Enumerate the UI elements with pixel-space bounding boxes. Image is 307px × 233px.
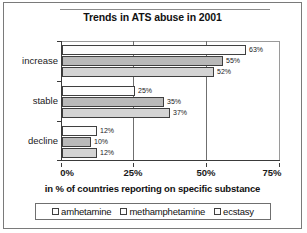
title-divider: [60, 9, 270, 10]
category-label-increase: increase: [6, 55, 58, 66]
bar-value-label: 10%: [94, 136, 108, 147]
x-tick-label-0: 0%: [60, 167, 74, 178]
legend-label: amhetamine: [61, 206, 111, 217]
chart-frame: Trends in ATS abuse in 2001 increase sta…: [3, 2, 302, 229]
bar-row: 52%: [62, 67, 280, 77]
bar-stable-ecstasy[interactable]: [62, 108, 170, 118]
bar-value-label: 25%: [138, 85, 152, 96]
legend-item-amhetamine[interactable]: amhetamine: [52, 206, 111, 217]
bar-value-label: 37%: [173, 107, 187, 118]
bar-row: 37%: [62, 108, 280, 118]
legend-swatch-icon: [214, 208, 221, 215]
bar-value-label: 12%: [100, 147, 114, 158]
x-axis-line: [61, 160, 280, 161]
category-label-stable: stable: [6, 95, 58, 106]
legend-label: methamphetamine: [129, 206, 205, 217]
x-axis-title: in % of countries reporting on specific …: [4, 183, 301, 194]
y-tick-3: [57, 160, 62, 161]
bar-increase-amhetamine[interactable]: [62, 45, 246, 55]
bar-value-label: 63%: [249, 44, 263, 55]
bar-row: 10%: [62, 137, 280, 147]
bar-row: 25%: [62, 86, 280, 96]
bar-row: 55%: [62, 56, 280, 66]
bar-decline-ecstasy[interactable]: [62, 148, 97, 158]
legend-swatch-icon: [120, 208, 127, 215]
y-tick-2: [57, 121, 62, 122]
bar-decline-methamphetamine[interactable]: [62, 137, 91, 147]
legend-item-methamphetamine[interactable]: methamphetamine: [120, 206, 205, 217]
x-axis-ticks: 0% 25% 50% 75%: [61, 163, 280, 177]
bar-group-stable: 25% 35% 37%: [62, 86, 280, 119]
legend-item-ecstasy[interactable]: ecstasy: [214, 206, 254, 217]
legend-label: ecstasy: [223, 206, 254, 217]
category-label-decline: decline: [6, 135, 58, 146]
bar-value-label: 35%: [167, 96, 181, 107]
bar-group-increase: 63% 55% 52%: [62, 45, 280, 78]
x-tick-label-75: 75%: [262, 167, 281, 178]
chart-legend: amhetamine methamphetamine ecstasy: [35, 203, 271, 220]
y-tick-1: [57, 81, 62, 82]
bar-value-label: 12%: [100, 125, 114, 136]
plot-top-border: [61, 41, 280, 42]
x-tick-label-25: 25%: [123, 167, 142, 178]
plot-area: 63% 55% 52% 25% 35% 37%: [61, 41, 280, 161]
x-tick-label-50: 50%: [196, 167, 215, 178]
bar-row: 12%: [62, 126, 280, 136]
bar-stable-methamphetamine[interactable]: [62, 97, 164, 107]
bar-stable-amhetamine[interactable]: [62, 86, 135, 96]
bar-value-label: 52%: [217, 66, 231, 77]
bar-decline-amhetamine[interactable]: [62, 126, 97, 136]
bar-row: 12%: [62, 148, 280, 158]
legend-swatch-icon: [52, 208, 59, 215]
category-axis-labels: increase stable decline: [4, 41, 58, 161]
bar-row: 35%: [62, 97, 280, 107]
bar-value-label: 55%: [226, 55, 240, 66]
bar-increase-ecstasy[interactable]: [62, 67, 214, 77]
y-tick-0: [57, 41, 62, 42]
bar-row: 63%: [62, 45, 280, 55]
chart-title: Trends in ATS abuse in 2001: [4, 11, 301, 23]
bar-increase-methamphetamine[interactable]: [62, 56, 223, 66]
bar-group-decline: 12% 10% 12%: [62, 126, 280, 159]
